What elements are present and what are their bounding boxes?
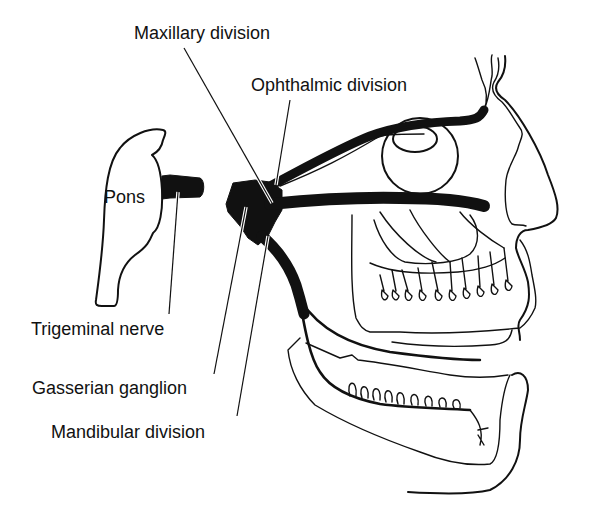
leader-lines	[169, 48, 290, 416]
pons-outline	[96, 129, 166, 306]
upper-teeth	[380, 210, 512, 300]
label-gasserian-ganglion: Gasserian ganglion	[32, 379, 187, 397]
label-mandibular-division: Mandibular division	[51, 423, 205, 441]
label-maxillary-division: Maxillary division	[134, 24, 270, 42]
label-ophthalmic-division: Ophthalmic division	[251, 76, 407, 94]
maxillary-nerve	[270, 198, 484, 206]
mandibular-nerve	[262, 236, 304, 314]
label-trigeminal-nerve: Trigeminal nerve	[31, 320, 164, 338]
ophthalmic-branch-brow	[475, 55, 492, 110]
eye-lens	[393, 126, 437, 152]
gasserian-ganglion	[226, 180, 282, 245]
trigeminal-nerve-stump	[162, 175, 204, 199]
label-pons: Pons	[104, 188, 145, 206]
ophthalmic-nerve	[272, 110, 484, 185]
maxilla-inner	[370, 258, 505, 273]
chin-profile	[408, 373, 528, 494]
lower-teeth-loops	[349, 383, 488, 445]
maxilla-sinus	[374, 215, 478, 264]
eyeball	[382, 118, 458, 194]
mandibular-lingual-branch	[300, 300, 480, 360]
mandible-outline	[288, 338, 510, 465]
